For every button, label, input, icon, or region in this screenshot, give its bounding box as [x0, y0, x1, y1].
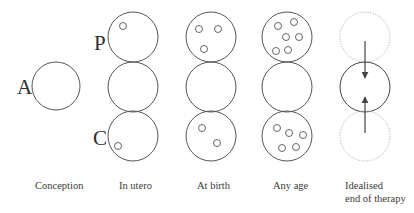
middle-circle [108, 62, 158, 112]
middle-circle [186, 62, 236, 112]
label-at-birth: At birth [197, 180, 231, 191]
letter-c-label: C [93, 126, 107, 150]
cell-dot [115, 143, 122, 150]
dots-bottom [115, 143, 122, 150]
label-conception: Conception [35, 180, 84, 191]
cell-dot [214, 140, 221, 147]
cell-dot [199, 125, 206, 132]
bottom-circle [186, 111, 236, 161]
cell-dot [293, 144, 300, 151]
top-circle [186, 12, 236, 62]
stage-diagram: A P C Conception In utero At b [0, 0, 414, 213]
dots-top [196, 26, 222, 53]
stage-any-age [262, 12, 312, 161]
stage-at-birth [186, 12, 236, 161]
cell-dot [120, 23, 127, 30]
stage-conception: A [17, 62, 80, 110]
stage-in-utero: P C [93, 12, 158, 161]
cell-dot [215, 26, 222, 33]
cell-dot [283, 34, 290, 41]
stage-idealised-end-of-therapy [340, 12, 390, 161]
stage-labels: Conception In utero At birth Any age Ide… [35, 180, 406, 204]
cell-dot [273, 48, 280, 55]
dots-top [120, 23, 127, 30]
cell-dot [279, 145, 286, 152]
cell-dot [274, 125, 281, 132]
label-any-age: Any age [273, 180, 309, 191]
label-in-utero: In utero [119, 180, 152, 191]
cell-dot [201, 46, 208, 53]
letter-a-label: A [17, 75, 33, 99]
middle-circle [262, 62, 312, 112]
label-idealised-line2: end of therapy [345, 193, 406, 204]
cell-dot [291, 19, 298, 26]
cell-dot [286, 130, 293, 137]
conception-circle [32, 62, 80, 110]
cell-dot [300, 132, 307, 139]
cell-dot [296, 34, 303, 41]
dots-top [273, 19, 303, 55]
letter-p-label: P [94, 31, 106, 55]
label-idealised-line1: Idealised [345, 180, 384, 191]
top-circle [108, 12, 158, 62]
dots-bottom [274, 125, 307, 152]
cell-dot [196, 26, 203, 33]
dots-bottom [199, 125, 221, 147]
bottom-circle [108, 111, 158, 161]
top-circle [262, 12, 312, 62]
cell-dot [285, 47, 292, 54]
cell-dot [275, 23, 282, 30]
